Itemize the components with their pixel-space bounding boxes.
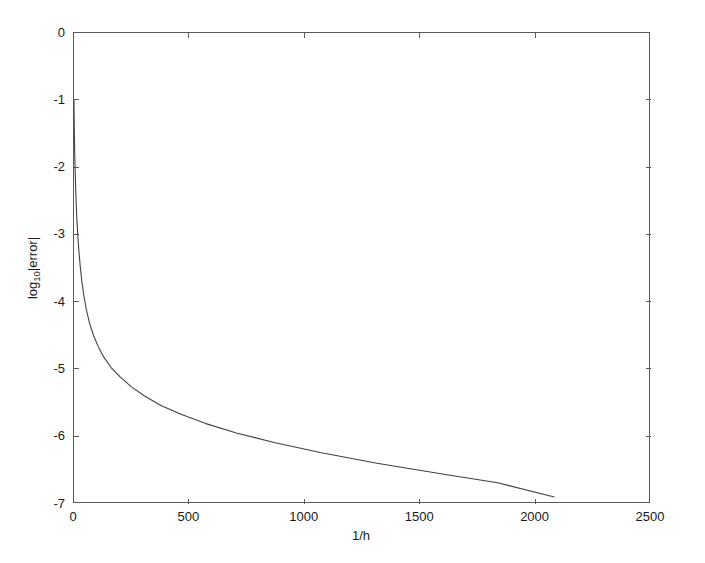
x-tick-label: 2500 xyxy=(636,509,665,524)
x-axis-tick-labels: 05001000150020002500 xyxy=(69,509,664,524)
y-axis-title-subscript: 10 xyxy=(31,271,42,282)
x-tick-label: 1500 xyxy=(405,509,434,524)
error-convergence-curve xyxy=(74,101,554,497)
svg-text:log10|error|: log10|error| xyxy=(25,237,42,299)
y-axis-tick-labels: 0-1-2-3-4-5-6-7 xyxy=(53,25,65,511)
convergence-plot: 05001000150020002500 0-1-2-3-4-5-6-7 1/h… xyxy=(0,0,705,563)
y-tick-label: -5 xyxy=(53,361,65,376)
plot-frame xyxy=(74,33,650,503)
y-axis-title-tail: |error| xyxy=(25,237,40,271)
y-axis-title-head: log xyxy=(25,282,40,299)
y-axis-title: log10|error| xyxy=(25,237,42,299)
y-tick-label: -2 xyxy=(53,159,65,174)
figure-canvas: 05001000150020002500 0-1-2-3-4-5-6-7 1/h… xyxy=(0,0,705,563)
y-tick-label: -4 xyxy=(53,294,65,309)
y-axis-ticks xyxy=(74,100,651,437)
y-tick-label: -3 xyxy=(53,226,65,241)
y-tick-label: 0 xyxy=(58,25,65,40)
data-series-group xyxy=(74,101,554,497)
x-axis-title: 1/h xyxy=(352,528,370,543)
x-tick-label: 0 xyxy=(69,509,76,524)
y-tick-label: -6 xyxy=(53,428,65,443)
x-tick-label: 1000 xyxy=(289,509,318,524)
x-tick-label: 2000 xyxy=(520,509,549,524)
y-tick-label: -7 xyxy=(53,496,65,511)
y-tick-label: -1 xyxy=(53,92,65,107)
x-tick-label: 500 xyxy=(178,509,200,524)
x-axis-ticks xyxy=(189,33,536,504)
